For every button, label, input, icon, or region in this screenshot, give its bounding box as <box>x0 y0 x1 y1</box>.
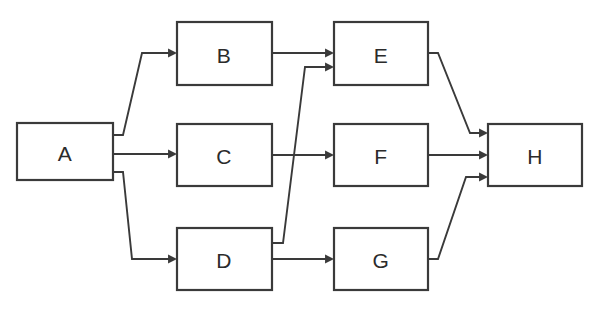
node-label: E <box>374 44 389 67</box>
arrow-head <box>325 150 334 159</box>
node-label: B <box>217 44 232 67</box>
node-label: G <box>373 249 390 272</box>
edge-a-to-c <box>113 149 177 158</box>
edge-d-to-g <box>272 254 334 263</box>
arrow-head <box>168 254 177 263</box>
node-layer: ABCDEFGH <box>17 22 582 290</box>
node-e[interactable]: E <box>334 22 428 85</box>
node-a[interactable]: A <box>17 123 113 180</box>
node-f[interactable]: F <box>334 124 428 186</box>
arrow-head <box>479 128 488 137</box>
flowchart-svg: ABCDEFGH <box>0 0 600 309</box>
edge-layer <box>113 48 488 263</box>
edge-line <box>428 53 483 133</box>
edge-g-to-h <box>428 172 488 259</box>
node-label: F <box>374 145 387 168</box>
edge-b-to-e <box>272 48 334 57</box>
edge-a-to-b <box>113 48 177 135</box>
edge-f-to-h <box>428 150 488 159</box>
arrow-head <box>168 149 177 158</box>
arrow-head <box>325 48 334 57</box>
node-label: C <box>216 145 232 168</box>
node-h[interactable]: H <box>488 124 582 186</box>
node-label: A <box>58 142 73 165</box>
arrow-head <box>325 62 334 71</box>
arrow-head <box>479 172 488 181</box>
arrow-head <box>168 48 177 57</box>
node-b[interactable]: B <box>177 22 272 85</box>
edge-e-to-h <box>428 53 488 138</box>
node-label: H <box>527 145 543 168</box>
edge-line <box>428 177 483 259</box>
edge-a-to-d <box>113 172 177 264</box>
flowchart-canvas: ABCDEFGH <box>0 0 600 309</box>
edge-line <box>113 172 172 259</box>
arrow-head <box>479 150 488 159</box>
edge-c-to-f <box>272 150 334 159</box>
edge-line <box>113 53 172 135</box>
node-d[interactable]: D <box>177 228 272 290</box>
arrow-head <box>325 254 334 263</box>
node-label: D <box>216 249 232 272</box>
node-g[interactable]: G <box>334 228 428 290</box>
edge-d-to-e <box>272 62 334 243</box>
node-c[interactable]: C <box>177 124 272 186</box>
